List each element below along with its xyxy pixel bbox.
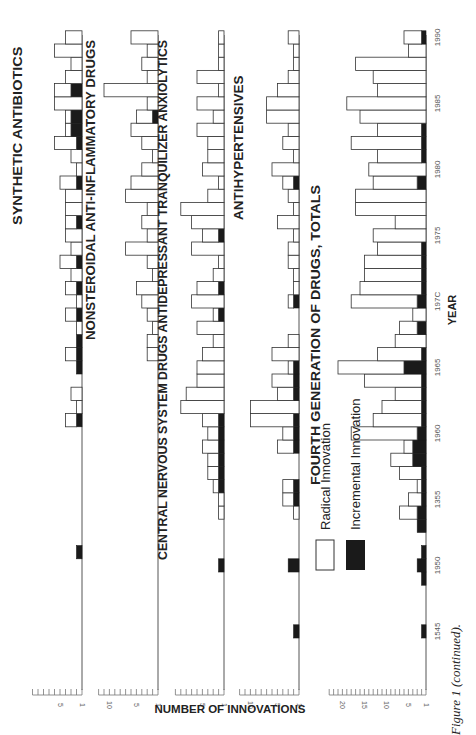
radical-bar <box>71 57 82 70</box>
radical-bar <box>71 387 82 400</box>
radical-bar <box>250 400 299 413</box>
panel-title: SYNTHETIC ANTIBIOTICS <box>11 47 25 226</box>
radical-bar <box>66 414 77 427</box>
legend-radical-label: Radical Innovation <box>318 423 333 530</box>
incremental-bar <box>219 480 224 493</box>
radical-bar <box>66 70 83 83</box>
radical-bar <box>417 480 421 493</box>
incremental-bar <box>219 308 224 321</box>
radical-bar <box>186 387 224 400</box>
incremental-bar <box>422 282 426 295</box>
incremental-bar <box>422 625 426 638</box>
radical-bar <box>60 176 77 189</box>
incremental-bar <box>294 414 299 427</box>
radical-bar <box>356 57 426 70</box>
radical-bar <box>400 466 422 479</box>
incremental-bar <box>413 440 426 453</box>
radical-bar <box>55 44 83 57</box>
incremental-bar <box>422 466 426 479</box>
radical-bar <box>288 361 293 374</box>
radical-bar <box>77 295 83 308</box>
incremental-bar <box>219 466 224 479</box>
radical-bar <box>356 189 426 202</box>
radical-bar <box>267 97 299 110</box>
radical-bar <box>378 150 422 163</box>
radical-bar <box>55 136 77 149</box>
radical-bar <box>208 136 224 149</box>
radical-bar <box>202 440 218 453</box>
radical-bar <box>378 84 426 97</box>
incremental-bar <box>77 361 83 374</box>
radical-bar <box>391 453 413 466</box>
radical-bar <box>373 414 421 427</box>
radical-bar <box>400 321 418 334</box>
year-tick-label: 1990 <box>433 28 442 46</box>
year-tick-label: 1980 <box>433 160 442 178</box>
radical-bar <box>192 216 224 229</box>
radical-bar <box>294 150 299 163</box>
incremental-bar <box>77 282 83 295</box>
incremental-bar <box>413 453 426 466</box>
radical-bar <box>356 202 426 215</box>
radical-bar <box>208 453 219 466</box>
radical-bar <box>382 400 422 413</box>
incremental-bar <box>219 440 224 453</box>
radical-bar <box>66 202 83 215</box>
radical-bar <box>378 242 422 255</box>
incremental-bar <box>219 453 224 466</box>
radical-bar <box>272 348 299 361</box>
radical-bar <box>283 176 294 189</box>
incremental-bar <box>219 414 224 427</box>
radical-bar <box>126 189 158 202</box>
incremental-bar <box>422 414 426 427</box>
incremental-bar <box>77 176 83 189</box>
year-tick-label: 1355 <box>433 490 442 508</box>
radical-bar <box>364 374 421 387</box>
radical-bar <box>66 31 83 44</box>
radical-bar <box>197 374 224 387</box>
incremental-bar <box>422 546 426 559</box>
incremental-bar <box>417 427 426 440</box>
radical-bar <box>288 242 299 255</box>
axis-tick-label: 5 <box>405 703 412 707</box>
radical-bar <box>288 255 299 268</box>
radical-bar <box>208 150 224 163</box>
year-tick-label: 1950 <box>433 556 442 574</box>
radical-bar <box>294 229 299 242</box>
radical-bar <box>219 31 224 44</box>
incremental-bar <box>77 255 83 268</box>
radical-bar <box>66 189 83 202</box>
radical-bar <box>364 255 421 268</box>
x-axis-title: YEAR <box>446 295 458 326</box>
radical-bar <box>395 334 426 347</box>
rotated-figure: 15SYNTHETIC ANTIBIOTICS1510NONSTEROIDAL … <box>0 0 476 735</box>
radical-bar <box>294 57 299 70</box>
incremental-bar <box>417 176 426 189</box>
radical-bar <box>208 189 224 202</box>
radical-bar <box>272 163 299 176</box>
incremental-bar <box>422 150 426 163</box>
radical-bar <box>360 110 426 123</box>
radical-bar <box>60 255 77 268</box>
radical-bar <box>378 348 422 361</box>
radical-bar <box>55 97 83 110</box>
axis-tick-label: 1 <box>79 703 86 707</box>
radical-bar <box>277 440 293 453</box>
radical-bar <box>364 268 421 281</box>
incremental-bar <box>294 387 299 400</box>
incremental-bar <box>422 255 426 268</box>
radical-bar <box>288 334 299 347</box>
radical-bar <box>208 466 219 479</box>
incremental-bar <box>422 348 426 361</box>
radical-bar <box>181 202 224 215</box>
incremental-bar <box>288 559 299 572</box>
radical-bar <box>197 321 224 334</box>
radical-bar <box>219 44 224 57</box>
year-tick-label: 1965 <box>433 358 442 376</box>
radical-bar <box>351 136 421 149</box>
axis-tick-label: 5 <box>57 703 64 707</box>
incremental-bar <box>77 136 83 149</box>
radical-bar <box>294 506 299 519</box>
radical-bar <box>283 136 299 149</box>
radical-bar <box>413 308 426 321</box>
